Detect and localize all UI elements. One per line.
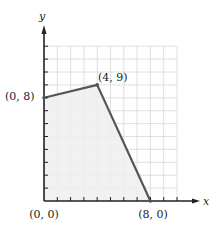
point-label-4-9: (4, 9) [98,71,128,84]
point-label-0-8: (0, 8) [5,90,35,103]
feasible-region-chart: y x (0, 0) (0, 8) (4, 9) (8, 0) [0,0,216,232]
point-label-8-0: (8, 0) [138,208,168,221]
point-label-origin: (0, 0) [29,208,59,221]
x-axis-label: x [203,195,210,208]
shaded-region [44,85,150,201]
y-axis-label: y [38,10,46,23]
